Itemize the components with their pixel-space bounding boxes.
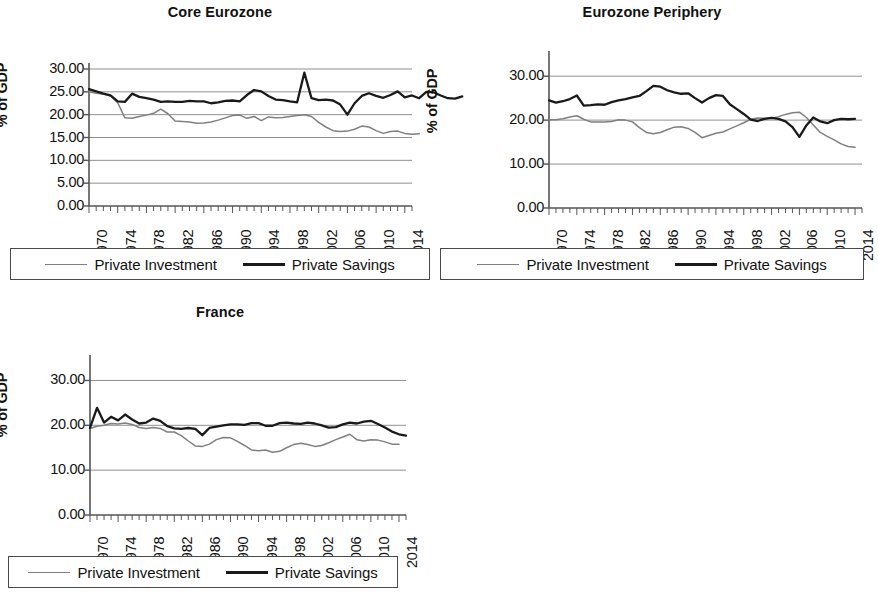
series-line-private-savings [549, 86, 855, 137]
legend-label-private-savings: Private Savings [292, 256, 395, 273]
y-tick-label-core-6: 0.00 [22, 198, 84, 213]
y-tick-label-core-0: 30.00 [22, 61, 84, 76]
chart-panel-core-eurozone: Core Eurozone % of GDP30.0025.0020.0015.… [0, 0, 440, 292]
y-tick-label-periphery-3: 0.00 [482, 200, 544, 215]
line-swatch-savings-icon [675, 263, 717, 266]
y-tick-label-periphery-2: 10.00 [482, 156, 544, 171]
series-line-private-investment [89, 92, 419, 134]
series-line-private-savings [89, 73, 462, 115]
y-tick-label-periphery-0: 30.00 [482, 68, 544, 83]
series-line-private-savings [90, 408, 406, 436]
y-tick-label-core-1: 25.00 [22, 84, 84, 99]
legend-core-eurozone: Private Investment Private Savings [10, 248, 430, 280]
legend-entry-private-investment: Private Investment [477, 256, 648, 273]
y-tick-label-france-2: 10.00 [23, 462, 85, 477]
legend-eurozone-periphery: Private Investment Private Savings [440, 248, 864, 280]
series-line-private-investment [90, 423, 399, 452]
series-line-private-investment [549, 112, 855, 147]
legend-entry-private-savings: Private Savings [243, 256, 395, 273]
chart-title-core-eurozone: Core Eurozone [0, 0, 440, 23]
legend-entry-private-savings: Private Savings [226, 564, 378, 581]
legend-entry-private-savings: Private Savings [675, 256, 827, 273]
line-swatch-savings-icon [226, 571, 268, 574]
legend-label-private-savings: Private Savings [724, 256, 827, 273]
y-tick-label-periphery-1: 20.00 [482, 112, 544, 127]
y-tick-label-france-3: 0.00 [23, 507, 85, 522]
y-tick-label-core-5: 5.00 [22, 175, 84, 190]
line-swatch-savings-icon [243, 263, 285, 266]
legend-label-private-savings: Private Savings [275, 564, 378, 581]
chart-panel-france: France % of GDP30.0020.0010.000.00197019… [0, 300, 440, 597]
plot-area-eurozone-periphery: % of GDP30.0020.0010.000.001970197419781… [432, 23, 872, 328]
line-swatch-investment-icon [45, 264, 87, 265]
legend-label-private-investment: Private Investment [77, 564, 199, 581]
y-axis-label-core: % of GDP [0, 35, 10, 155]
x-tick-label-france-11: 2014 [405, 537, 420, 568]
legend-entry-private-investment: Private Investment [45, 256, 216, 273]
legend-label-private-investment: Private Investment [526, 256, 648, 273]
chart-panel-eurozone-periphery: Eurozone Periphery % of GDP30.0020.0010.… [432, 0, 872, 292]
y-tick-label-france-0: 30.00 [23, 372, 85, 387]
y-axis-label-france: % of GDP [0, 345, 10, 465]
plot-area-core-eurozone: % of GDP30.0025.0020.0015.0010.005.000.0… [0, 23, 440, 326]
legend-france: Private Investment Private Savings [8, 556, 398, 588]
y-tick-label-core-4: 10.00 [22, 152, 84, 167]
legend-label-private-investment: Private Investment [94, 256, 216, 273]
y-tick-label-france-1: 20.00 [23, 417, 85, 432]
chart-title-france: France [0, 300, 440, 323]
y-tick-label-core-2: 20.00 [22, 107, 84, 122]
y-axis-label-periphery: % of GDP [424, 41, 440, 161]
y-tick-label-core-3: 15.00 [22, 130, 84, 145]
line-swatch-investment-icon [28, 572, 70, 573]
legend-entry-private-investment: Private Investment [28, 564, 199, 581]
line-swatch-investment-icon [477, 264, 519, 265]
chart-title-eurozone-periphery: Eurozone Periphery [432, 0, 872, 23]
